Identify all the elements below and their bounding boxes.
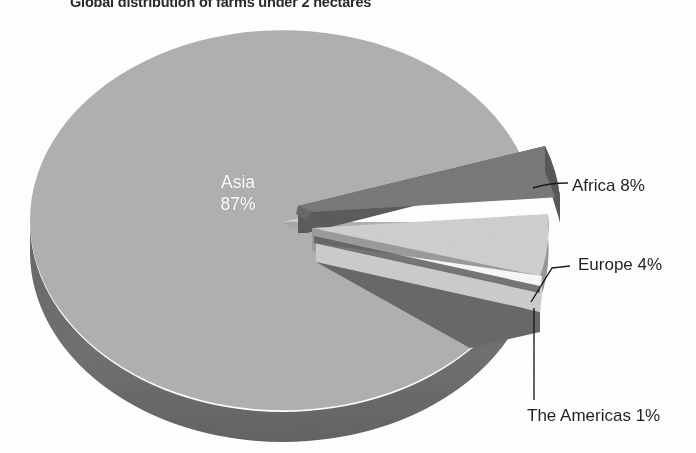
slice-label-africa: Africa 8% — [572, 176, 645, 195]
slice-label-asia-name: Asia — [196, 171, 280, 193]
slice-label-asia: Asia 87% — [196, 171, 280, 215]
slice-label-asia-value: 87% — [196, 193, 280, 215]
slice-label-the-americas: The Americas 1% — [527, 406, 660, 425]
pie-chart-graphic — [0, 0, 696, 453]
slice-label-europe: Europe 4% — [578, 255, 662, 274]
pie-chart-figure: Global distribution of farms under 2 hec… — [0, 0, 696, 453]
